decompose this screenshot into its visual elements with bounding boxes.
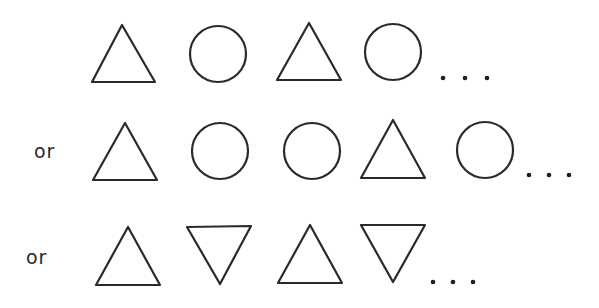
row-2-sequence — [93, 120, 571, 180]
row-3-sequence — [96, 225, 475, 285]
ellipsis-icon — [527, 173, 572, 178]
row-1-sequence — [92, 23, 489, 82]
triangle-up-icon — [361, 120, 425, 178]
circle-icon — [192, 123, 248, 179]
circle-icon — [365, 24, 421, 80]
pattern-sequences-diagram: or or — [0, 0, 599, 308]
triangle-up-icon — [278, 225, 342, 283]
circle-icon — [457, 122, 513, 178]
triangle-up-icon — [277, 23, 341, 80]
ellipsis-icon — [431, 280, 476, 285]
triangle-down-icon — [361, 225, 425, 282]
shapes-layer — [0, 0, 599, 308]
triangle-up-icon — [92, 25, 155, 82]
triangle-up-icon — [96, 227, 160, 285]
triangle-down-icon — [187, 226, 251, 284]
circle-icon — [284, 123, 340, 179]
circle-icon — [190, 26, 246, 82]
triangle-up-icon — [93, 123, 157, 180]
ellipsis-icon — [441, 76, 490, 81]
